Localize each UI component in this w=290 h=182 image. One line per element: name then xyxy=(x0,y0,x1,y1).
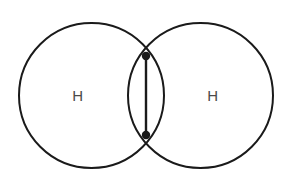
molecule-canvas: H H xyxy=(0,0,290,182)
electron-dot-top-icon xyxy=(142,52,150,60)
atom-label-right: H xyxy=(207,87,218,104)
electron-dot-bottom-icon xyxy=(142,131,150,139)
molecule-diagram: H H xyxy=(0,0,290,182)
atom-label-left: H xyxy=(72,87,83,104)
